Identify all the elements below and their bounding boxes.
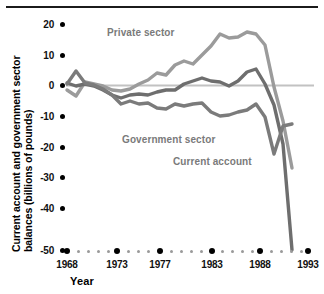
- x-major-dot-1973: [114, 248, 120, 254]
- x-tick-label-1973: 1973: [99, 259, 135, 270]
- x-minor-dot: [87, 250, 90, 253]
- x-minor-dot: [180, 250, 183, 253]
- x-tick-label-1983: 1983: [194, 259, 230, 270]
- series-label-current-account: Current account: [173, 156, 252, 167]
- x-minor-dot: [241, 250, 244, 253]
- x-minor-dot: [137, 250, 140, 253]
- chart-figure: Current account and government sector ba…: [0, 0, 324, 294]
- x-tick-label-1993: 1993: [290, 259, 324, 270]
- x-minor-dot: [170, 250, 173, 253]
- x-minor-dot: [270, 250, 273, 253]
- x-major-dot-1968: [64, 248, 70, 254]
- x-minor-dot: [221, 250, 224, 253]
- x-minor-dot: [97, 250, 100, 253]
- x-tick-label-1968: 1968: [49, 259, 85, 270]
- series-line-private-sector: [67, 32, 292, 168]
- x-minor-dot: [251, 250, 254, 253]
- x-major-dot-1983: [209, 248, 215, 254]
- x-major-dot-1988: [257, 248, 263, 254]
- x-minor-dot: [127, 250, 130, 253]
- x-minor-dot: [280, 250, 283, 253]
- x-minor-dot: [231, 250, 234, 253]
- x-minor-dot: [107, 250, 110, 253]
- x-minor-dot: [200, 250, 203, 253]
- x-major-dot-1977: [157, 248, 163, 254]
- x-minor-dot: [190, 250, 193, 253]
- x-minor-dot: [290, 250, 293, 253]
- series-label-government-sector: Government sector: [122, 134, 215, 145]
- series-label-private-sector: Private sector: [107, 27, 175, 38]
- x-minor-dot: [147, 250, 150, 253]
- x-tick-label-1977: 1977: [142, 259, 178, 270]
- x-axis-title: Year: [70, 275, 94, 287]
- x-major-dot-1993: [305, 248, 311, 254]
- x-minor-dot: [300, 250, 303, 253]
- x-tick-label-1988: 1988: [242, 259, 278, 270]
- x-minor-dot: [77, 250, 80, 253]
